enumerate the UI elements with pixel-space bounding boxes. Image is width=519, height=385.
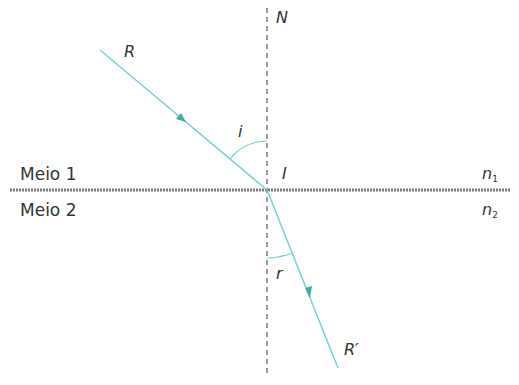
n2-subscript: 2 [492,210,498,220]
medium-2-label: Meio 2 [20,202,76,219]
refracted-ray-label: R′ [344,342,359,358]
refraction-angle-label: r [276,266,283,282]
n1-label: n1 [482,166,498,184]
n1-subscript: 1 [492,174,498,184]
refracted-arrow-icon [305,286,312,298]
incidence-point-label: I [282,166,287,182]
n2-label: n2 [482,202,498,220]
n2-base: n [482,200,492,219]
normal-label: N [276,10,288,26]
n1-base: n [482,164,492,183]
refraction-diagram [0,0,519,385]
incidence-angle-label: i [238,124,242,140]
medium-1-label: Meio 1 [20,166,76,183]
refraction-angle-arc [267,253,292,258]
incidence-angle-arc [230,141,267,159]
incident-ray-label: R [124,44,135,60]
